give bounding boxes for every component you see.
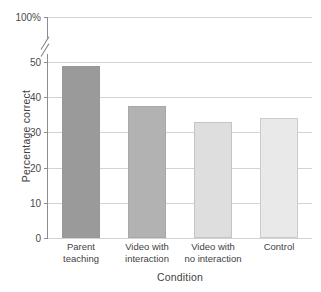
plot-area: 01020304050100% bbox=[48, 17, 312, 238]
y-tick-label: 30 bbox=[30, 127, 41, 138]
bar-chart: Percentage correct 01020304050100% Paren… bbox=[0, 0, 321, 292]
x-tick-label-1: Parentteaching bbox=[44, 241, 118, 264]
tick-mark bbox=[44, 238, 48, 239]
gridline bbox=[48, 17, 312, 18]
y-tick-label: 0 bbox=[35, 233, 41, 244]
bar-1 bbox=[62, 66, 100, 238]
x-tick-label-3: Video withno interaction bbox=[176, 241, 250, 264]
gridline bbox=[48, 238, 312, 239]
gridline bbox=[48, 62, 312, 63]
y-tick-label: 20 bbox=[30, 162, 41, 173]
y-tick-label: 10 bbox=[30, 197, 41, 208]
x-tick-label-2: Video withinteraction bbox=[110, 241, 184, 264]
axis-break-icon bbox=[41, 36, 55, 58]
y-tick-label: 100% bbox=[15, 12, 41, 23]
y-tick-label: 40 bbox=[30, 92, 41, 103]
bar-3 bbox=[194, 122, 232, 238]
x-tick-labels: ParentteachingVideo withinteractionVideo… bbox=[48, 241, 312, 271]
tick-mark bbox=[44, 168, 48, 169]
bar-4 bbox=[260, 118, 298, 238]
tick-mark bbox=[44, 17, 48, 18]
tick-mark bbox=[44, 62, 48, 63]
tick-mark bbox=[44, 97, 48, 98]
tick-mark bbox=[44, 203, 48, 204]
x-tick-label-4: Control bbox=[242, 241, 316, 253]
bar-2 bbox=[128, 106, 166, 238]
tick-mark bbox=[44, 132, 48, 133]
x-axis-title: Condition bbox=[48, 271, 312, 283]
y-tick-label: 50 bbox=[30, 57, 41, 68]
